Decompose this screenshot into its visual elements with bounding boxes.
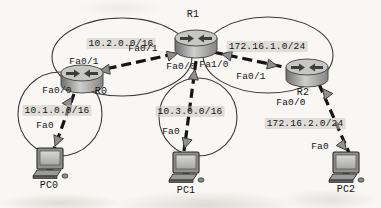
port-arrow xyxy=(50,135,63,148)
pc2-label: PC2 xyxy=(337,184,356,195)
if-label-r1-fa0-1: Fa0/1 xyxy=(128,43,158,54)
if-label-r0-fa0-0: Fa0/0 xyxy=(42,85,72,96)
if-label-r1-fa0-0: Fa0/0 xyxy=(166,61,196,72)
if-label-r1-fa1-0: Fa1/0 xyxy=(199,59,229,70)
if-label-r0-fa0-1: Fa0/1 xyxy=(69,56,99,67)
if-label-pc1-fa0: Fa0 xyxy=(162,126,180,137)
pc0-icon[interactable] xyxy=(33,148,68,179)
pc1-icon[interactable] xyxy=(169,152,204,183)
if-label-r2-fa0-1: Fa0/1 xyxy=(236,71,266,82)
diagram-shapes xyxy=(0,0,381,208)
network-label-172-16-2-0: 172.16.2.0/24 xyxy=(265,118,346,129)
network-label-172-16-1-0: 172.16.1.0/24 xyxy=(227,41,308,52)
if-label-pc0-fa0: Fa0 xyxy=(36,120,54,131)
if-label-pc2-fa0: Fa0 xyxy=(311,141,329,152)
router-r2-icon[interactable] xyxy=(286,59,328,87)
network-ellipse-10-3-0-0 xyxy=(159,78,237,156)
pc2-icon[interactable] xyxy=(329,152,364,183)
network-label-10-1-0-0: 10.1.0.0/16 xyxy=(23,105,92,116)
pc0-label: PC0 xyxy=(40,180,59,191)
topology-canvas: R1 R0 R2 PC0 PC1 PC2 10.2.0.0/16 172.16.… xyxy=(0,0,381,208)
router-r1-icon[interactable] xyxy=(175,30,217,58)
pc1-label: PC1 xyxy=(177,185,196,196)
port-arrow xyxy=(267,59,279,71)
network-label-10-3-0-0: 10.3.0.0/16 xyxy=(156,106,225,117)
router-r1-label: R1 xyxy=(187,9,199,20)
router-r0-label: R0 xyxy=(95,86,107,97)
if-label-r2-fa0-0: Fa0/0 xyxy=(276,97,306,108)
